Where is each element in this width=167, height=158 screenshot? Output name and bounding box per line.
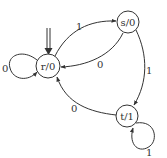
edge-s-t xyxy=(134,30,145,105)
state-s-label: s/0 xyxy=(121,17,136,28)
state-r: r/0 xyxy=(36,54,60,78)
edge-label-r-s: 1 xyxy=(76,21,82,32)
state-diagram: 0 1 0 1 0 1 r/0 s/0 t/1 xyxy=(0,0,167,158)
state-t: t/1 xyxy=(116,105,138,127)
edge-label-s-t: 1 xyxy=(146,65,152,76)
state-r-label: r/0 xyxy=(41,61,56,72)
edge-t-t xyxy=(132,123,155,149)
edge-r-r xyxy=(9,54,37,78)
edge-label-r-r: 0 xyxy=(2,63,8,74)
start-arrow xyxy=(45,28,53,55)
edge-s-r xyxy=(61,33,123,67)
state-s: s/0 xyxy=(117,11,139,33)
state-t-label: t/1 xyxy=(120,111,134,122)
edge-label-t-r: 0 xyxy=(71,103,77,114)
edge-label-t-t: 1 xyxy=(146,147,152,158)
edge-r-s xyxy=(55,21,116,56)
edge-label-s-r: 0 xyxy=(97,59,103,70)
edge-t-r xyxy=(57,77,116,115)
